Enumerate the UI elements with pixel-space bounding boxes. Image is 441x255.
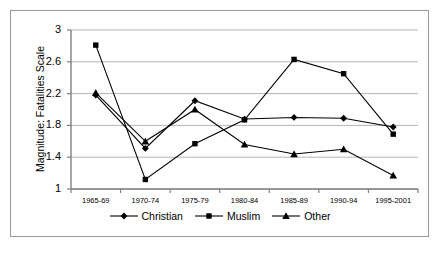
- data-point-muslim-1975-79: [192, 141, 197, 146]
- data-point-other-1975-79: [191, 106, 199, 113]
- legend-label-other: Other: [304, 211, 330, 222]
- series-line-other: [96, 93, 393, 176]
- legend-swatch-triangle-icon: [271, 210, 301, 222]
- chart-frame: Magnitude: Fatalities Scale 11.41.82.22.…: [10, 10, 429, 237]
- legend-marker-diamond-icon: [120, 213, 127, 220]
- data-point-christian-1995-2001: [390, 124, 397, 131]
- data-point-muslim-1965-69: [93, 42, 98, 47]
- data-point-muslim-1985-89: [291, 57, 296, 62]
- chart-canvas: [11, 11, 430, 238]
- data-point-other-1990-94: [340, 145, 348, 152]
- data-point-christian-1990-94: [340, 115, 347, 122]
- data-point-muslim-1990-94: [341, 71, 346, 76]
- legend-swatch-diamond-icon: [109, 210, 139, 222]
- data-point-muslim-1980-84: [242, 117, 247, 122]
- data-point-muslim-1995-2001: [391, 131, 396, 136]
- data-point-other-1965-69: [92, 89, 100, 96]
- series-line-muslim: [96, 45, 393, 179]
- legend-swatch-square-icon: [194, 210, 224, 222]
- data-point-other-1980-84: [241, 141, 249, 148]
- plot-area: Magnitude: Fatalities Scale 11.41.82.22.…: [11, 11, 428, 236]
- legend-item-other[interactable]: Other: [271, 210, 330, 222]
- data-point-christian-1985-89: [291, 114, 298, 121]
- data-point-other-1995-2001: [389, 172, 397, 179]
- data-point-muslim-1970-74: [143, 177, 148, 182]
- chart-legend: ChristianMuslimOther: [11, 210, 428, 222]
- legend-item-christian[interactable]: Christian: [109, 210, 183, 222]
- legend-label-muslim: Muslim: [227, 211, 260, 222]
- legend-item-muslim[interactable]: Muslim: [194, 210, 260, 222]
- legend-label-christian: Christian: [142, 211, 183, 222]
- legend-marker-square-icon: [206, 213, 211, 218]
